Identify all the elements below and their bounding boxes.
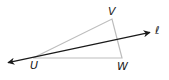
vertex-label-v: V bbox=[108, 6, 116, 17]
triangle-uvw bbox=[33, 19, 122, 58]
line-label-l: ℓ bbox=[155, 25, 160, 36]
vertex-label-u: U bbox=[30, 60, 38, 71]
triangle-diagram bbox=[0, 0, 169, 80]
vertex-label-w: W bbox=[117, 61, 128, 72]
